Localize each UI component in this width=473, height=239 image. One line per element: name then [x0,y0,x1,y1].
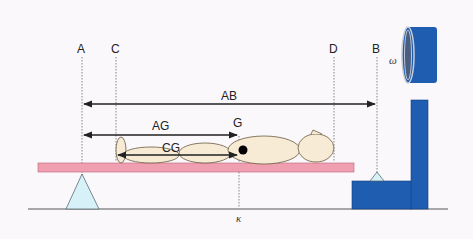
label-D: D [329,42,338,56]
label-CG: CG [162,141,180,155]
label-B: B [372,42,380,56]
fulcrum-left [66,174,99,209]
reaction-board-diagram: A C D B ω AB AG G CG κ [0,0,473,239]
scale-base [352,181,412,209]
scale-column [411,100,428,209]
reaction-board [38,163,354,172]
body-nose [311,130,322,134]
scale-dial-rim [405,30,412,80]
label-kappa: κ [236,212,242,224]
body-head [298,134,334,162]
body-thighs [179,143,231,163]
label-omega: ω [389,54,397,66]
label-C: C [111,42,120,56]
body-feet [116,137,126,163]
label-A: A [77,42,85,56]
label-G: G [233,116,242,130]
fulcrum-right [370,172,384,181]
label-AG: AG [152,119,169,133]
label-AB: AB [221,89,237,103]
center-of-gravity-dot [239,146,248,155]
